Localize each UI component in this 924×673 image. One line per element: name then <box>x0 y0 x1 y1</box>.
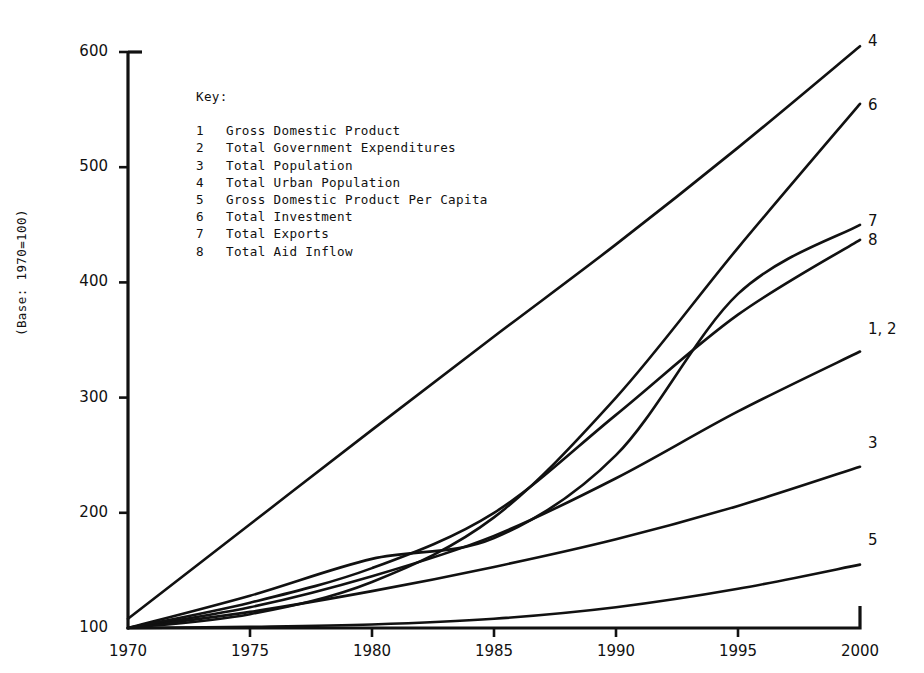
x-tick-label-1975: 1975 <box>215 642 285 660</box>
key-entry-7: 7Total Exports <box>196 225 488 242</box>
series-line-3 <box>128 467 860 628</box>
key-entry-4: 4Total Urban Population <box>196 174 488 191</box>
x-tick-label-1980: 1980 <box>337 642 407 660</box>
key-entry-3: 3Total Population <box>196 157 488 174</box>
series-end-label-4: 4 <box>868 32 878 50</box>
x-tick-label-1985: 1985 <box>459 642 529 660</box>
x-tick-label-1995: 1995 <box>703 642 773 660</box>
series-line-8 <box>128 240 860 628</box>
series-end-label-5: 5 <box>868 531 878 549</box>
key-entry-list: 1Gross Domestic Product2Total Government… <box>196 122 488 260</box>
key-entry-label: Total Investment <box>226 209 353 224</box>
series-end-label-1-2: 1, 2 <box>868 320 897 338</box>
y-tick-label-500: 500 <box>54 157 108 175</box>
key-entry-label: Total Population <box>226 158 353 173</box>
y-tick-label-100: 100 <box>54 618 108 636</box>
key-entry-number: 2 <box>196 139 226 156</box>
key-entry-label: Total Urban Population <box>226 175 401 190</box>
x-tick-label-2000: 2000 <box>825 642 895 660</box>
x-tick-label-1990: 1990 <box>581 642 651 660</box>
key-entry-label: Total Aid Inflow <box>226 244 353 259</box>
chart-figure: (Base: 1970=100) 600500400300200100 1970… <box>0 0 924 673</box>
x-tick-label-1970: 1970 <box>93 642 163 660</box>
key-entry-label: Gross Domestic Product Per Capita <box>226 192 488 207</box>
series-line-5 <box>128 565 860 628</box>
key-entry-5: 5Gross Domestic Product Per Capita <box>196 191 488 208</box>
key-entry-number: 1 <box>196 122 226 139</box>
y-tick-label-600: 600 <box>54 42 108 60</box>
key-entry-number: 5 <box>196 191 226 208</box>
chart-key-legend: Key: 1Gross Domestic Product2Total Gover… <box>196 88 488 260</box>
series-end-label-8: 8 <box>868 231 878 249</box>
key-entry-1: 1Gross Domestic Product <box>196 122 488 139</box>
key-entry-number: 3 <box>196 157 226 174</box>
key-title: Key: <box>196 88 488 105</box>
y-tick-label-200: 200 <box>54 503 108 521</box>
key-entry-number: 8 <box>196 243 226 260</box>
y-axis-title: (Base: 1970=100) <box>14 136 29 336</box>
key-entry-8: 8Total Aid Inflow <box>196 243 488 260</box>
key-entry-number: 7 <box>196 225 226 242</box>
key-entry-label: Total Exports <box>226 226 329 241</box>
y-tick-label-400: 400 <box>54 272 108 290</box>
series-end-label-6: 6 <box>868 96 878 114</box>
key-entry-2: 2Total Government Expenditures <box>196 139 488 156</box>
series-end-label-3: 3 <box>868 434 878 452</box>
key-entry-6: 6Total Investment <box>196 208 488 225</box>
series-end-label-7: 7 <box>868 212 878 230</box>
key-entry-label: Gross Domestic Product <box>226 123 401 138</box>
key-entry-number: 4 <box>196 174 226 191</box>
key-entry-label: Total Government Expenditures <box>226 140 456 155</box>
key-entry-number: 6 <box>196 208 226 225</box>
y-tick-label-300: 300 <box>54 388 108 406</box>
